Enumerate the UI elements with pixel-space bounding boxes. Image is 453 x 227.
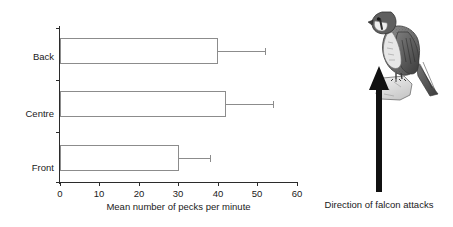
x-axis-tick-10 — [99, 182, 100, 186]
error-bar-front — [179, 158, 210, 159]
arrow-shape — [369, 66, 389, 192]
falcon-eye — [377, 17, 380, 20]
x-axis-tick-30 — [178, 182, 179, 186]
falcon-beak — [368, 20, 373, 25]
x-axis-tick-0 — [60, 182, 61, 186]
figure: Back Centre Front — [0, 0, 453, 227]
x-axis-ticklabel-10: 10 — [94, 188, 105, 199]
bar-back — [60, 38, 218, 64]
y-axis-tick-2 — [56, 132, 60, 133]
x-axis-ticklabel-60: 60 — [292, 188, 303, 199]
y-axis-category-labels: Back Centre Front — [0, 0, 54, 227]
falcon-panel: Direction of falcon attacks — [305, 0, 453, 227]
x-axis-ticklabel-40: 40 — [213, 188, 224, 199]
x-axis-tick-20 — [139, 182, 140, 186]
y-axis-label-centre: Centre — [25, 108, 54, 119]
x-axis-tick-60 — [297, 182, 298, 186]
bar-chart-panel: Back Centre Front — [0, 0, 305, 227]
y-axis-tick-1 — [56, 80, 60, 81]
y-axis-label-back: Back — [33, 51, 54, 62]
x-axis-tick-50 — [257, 182, 258, 186]
x-axis-ticklabel-30: 30 — [173, 188, 184, 199]
x-axis-title: Mean number of pecks per minute — [60, 201, 297, 213]
x-axis-ticklabel-0: 0 — [57, 188, 62, 199]
y-axis-label-front: Front — [32, 162, 54, 173]
error-bar-cap-centre — [273, 101, 274, 108]
error-bar-back — [218, 51, 265, 52]
x-axis-ticklabel-50: 50 — [252, 188, 263, 199]
error-bar-centre — [226, 104, 273, 105]
bar-front — [60, 145, 179, 171]
plot-area — [60, 28, 297, 182]
upward-arrow-icon — [367, 66, 391, 192]
falcon-panel-caption: Direction of falcon attacks — [305, 199, 453, 211]
error-bar-cap-front — [210, 155, 211, 162]
bar-centre — [60, 91, 226, 117]
error-bar-cap-back — [265, 48, 266, 55]
y-axis-tick-top — [56, 28, 60, 29]
x-axis-tick-40 — [218, 182, 219, 186]
x-axis-ticklabel-20: 20 — [134, 188, 145, 199]
